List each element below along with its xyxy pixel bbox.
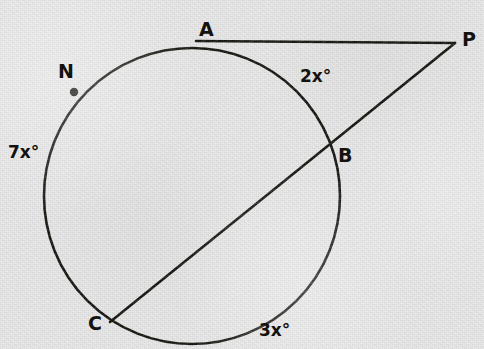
geometry-figure: A P B C N 2x° 3x° 7x° [0,0,484,349]
point-label-C: C [88,314,102,333]
arc-label-ab: 2x° [300,68,331,85]
secant-line-PC [110,43,455,322]
point-label-A: A [199,20,214,39]
point-label-N: N [58,62,74,81]
arc-label-bc: 3x° [259,322,290,339]
tangent-line-AP [196,41,455,43]
point-label-B: B [338,146,352,165]
point-label-P: P [462,30,476,49]
geometry-canvas [0,0,484,349]
circle-shape [44,48,340,344]
arc-label-cna: 7x° [8,144,39,161]
point-dot-N [70,88,78,96]
